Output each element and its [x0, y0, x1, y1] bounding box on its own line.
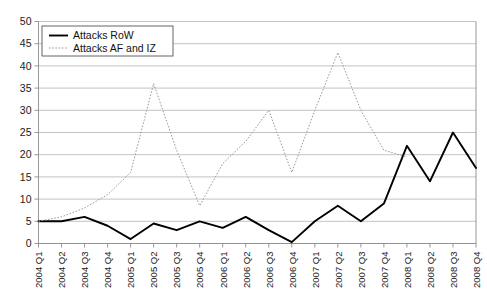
y-axis-label: 20 [20, 148, 32, 160]
x-axis-label: 2005 Q2 [148, 252, 159, 288]
x-axis-label: 2005 Q3 [171, 252, 182, 288]
x-axis-label: 2007 Q4 [379, 252, 390, 288]
x-axis-label: 2006 Q3 [264, 252, 275, 288]
y-axis-label: 25 [20, 126, 32, 138]
legend-label-af-iz: Attacks AF and IZ [73, 42, 156, 54]
x-axis-label: 2006 Q2 [241, 252, 252, 288]
y-axis-label: 15 [20, 171, 32, 183]
y-axis-label: 45 [20, 37, 32, 49]
x-axis-label: 2006 Q1 [218, 252, 229, 288]
x-axis-label: 2008 Q1 [402, 252, 413, 288]
x-axis-label: 2008 Q2 [425, 252, 436, 288]
x-axis-label: 2008 Q3 [448, 252, 459, 288]
line-chart: 051015202530354045502004 Q12004 Q22004 Q… [0, 0, 487, 307]
x-axis-label: 2004 Q3 [79, 252, 90, 288]
x-axis-label: 2004 Q1 [33, 252, 44, 288]
series-line-row [39, 133, 477, 243]
x-axis-label: 2004 Q2 [56, 252, 67, 288]
y-axis-label: 40 [20, 60, 32, 72]
x-axis-label: 2007 Q1 [310, 252, 321, 288]
x-axis-label: 2007 Q3 [356, 252, 367, 288]
y-axis-label: 35 [20, 82, 32, 94]
y-axis-label: 10 [20, 193, 32, 205]
x-axis-label: 2004 Q4 [102, 252, 113, 288]
y-axis-label: 30 [20, 104, 32, 116]
chart-container: 051015202530354045502004 Q12004 Q22004 Q… [0, 0, 487, 307]
y-axis-label: 0 [26, 237, 32, 249]
y-axis-label: 5 [26, 215, 32, 227]
x-axis-label: 2007 Q2 [333, 252, 344, 288]
x-axis-label: 2005 Q1 [125, 252, 136, 288]
y-axis-label: 50 [20, 15, 32, 27]
series-line-af-iz [39, 53, 407, 222]
x-axis-label: 2006 Q4 [287, 252, 298, 288]
x-axis-label: 2008 Q4 [471, 252, 482, 288]
legend-label-row: Attacks RoW [73, 29, 134, 41]
x-axis-label: 2005 Q4 [194, 252, 205, 288]
